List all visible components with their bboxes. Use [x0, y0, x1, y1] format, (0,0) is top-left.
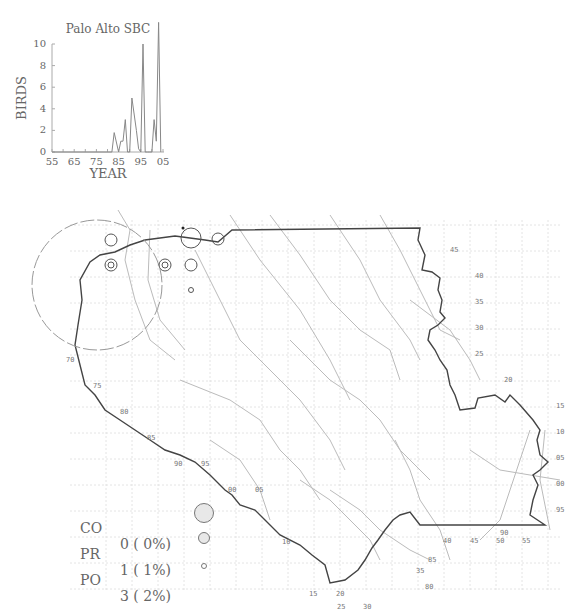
svg-text:80: 80: [425, 583, 433, 591]
svg-text:45: 45: [450, 246, 458, 254]
svg-text:95: 95: [201, 460, 209, 468]
range-circle: [32, 220, 162, 350]
svg-text:05: 05: [556, 454, 564, 462]
svg-text:90: 90: [174, 460, 182, 468]
bird-count-line: [52, 22, 161, 152]
county-boundary: [75, 228, 548, 583]
svg-text:8: 8: [40, 60, 46, 71]
svg-text:10: 10: [33, 38, 46, 49]
svg-text:90: 90: [500, 529, 508, 537]
grid-labels: 7075808590950005101520253045403530252015…: [66, 246, 564, 611]
svg-text:25: 25: [475, 350, 483, 358]
svg-text:4: 4: [40, 103, 46, 114]
svg-text:80: 80: [120, 408, 128, 416]
svg-text:45: 45: [470, 537, 478, 545]
map-grid: [70, 220, 560, 590]
svg-text:2: 2: [40, 124, 46, 135]
svg-text:65: 65: [68, 156, 81, 167]
svg-text:15: 15: [556, 402, 564, 410]
confirmed-circle-icon: [194, 503, 214, 523]
svg-text:50: 50: [496, 537, 504, 545]
svg-text:85: 85: [147, 434, 155, 442]
legend-row-pr: PR 1 ( 1%): [80, 530, 98, 552]
y-axis-label: BIRDS: [14, 76, 29, 120]
possible-circle-icon: [201, 563, 207, 569]
svg-text:05: 05: [157, 156, 170, 167]
legend-value: 3 ( 2%): [120, 588, 171, 604]
svg-text:30: 30: [363, 603, 371, 611]
svg-text:55: 55: [522, 537, 530, 545]
svg-text:75: 75: [93, 382, 101, 390]
svg-text:70: 70: [66, 356, 74, 364]
svg-text:55: 55: [46, 156, 59, 167]
svg-text:25: 25: [337, 603, 345, 611]
x-axis-label: YEAR: [88, 166, 127, 181]
svg-text:15: 15: [309, 590, 317, 598]
probable-circle-icon: [198, 532, 210, 544]
svg-text:35: 35: [416, 567, 424, 575]
svg-text:40: 40: [475, 272, 483, 280]
legend-row-co: CO 0 ( 0%): [80, 504, 98, 526]
dot-marker: [182, 227, 185, 230]
bird-count-chart: Palo Alto SBC 0246810 556575859505 YEAR …: [0, 0, 200, 190]
svg-text:95: 95: [556, 506, 564, 514]
svg-text:10: 10: [556, 428, 564, 436]
svg-text:40: 40: [443, 537, 451, 545]
svg-text:95: 95: [134, 156, 147, 167]
legend-value: 1 ( 1%): [120, 562, 171, 578]
svg-text:6: 6: [40, 81, 46, 92]
svg-text:85: 85: [428, 556, 436, 564]
svg-text:00: 00: [556, 480, 564, 488]
legend-value: 0 ( 0%): [120, 536, 171, 552]
svg-text:35: 35: [475, 298, 483, 306]
svg-text:20: 20: [504, 376, 512, 384]
svg-text:30: 30: [475, 324, 483, 332]
legend-code: PO: [80, 572, 101, 588]
legend-row-po: PO 3 ( 2%): [80, 556, 98, 578]
svg-text:00: 00: [228, 486, 236, 494]
svg-text:20: 20: [336, 590, 344, 598]
chart-title: Palo Alto SBC: [66, 22, 150, 36]
svg-text:05: 05: [255, 486, 263, 494]
svg-text:10: 10: [282, 538, 290, 546]
